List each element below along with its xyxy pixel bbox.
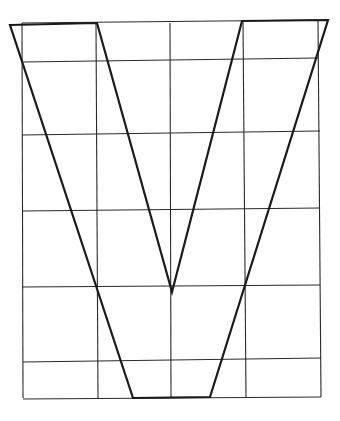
diagram-svg (0, 0, 340, 421)
v-grid-diagram (0, 0, 340, 421)
